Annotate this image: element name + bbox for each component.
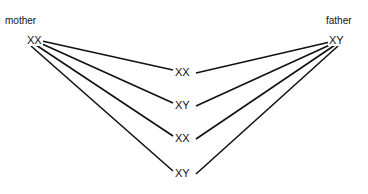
offspring-genotype-4: XY: [174, 168, 191, 179]
offspring-genotype-1: XX: [174, 67, 191, 78]
offspring-genotype-3: XX: [174, 133, 191, 144]
inheritance-lines: [0, 0, 368, 194]
mother-genotype: XX: [26, 35, 43, 46]
father-label: father: [326, 16, 352, 26]
father-genotype: XY: [328, 35, 345, 46]
mother-label: mother: [5, 16, 36, 26]
offspring-genotype-2: XY: [174, 100, 191, 111]
